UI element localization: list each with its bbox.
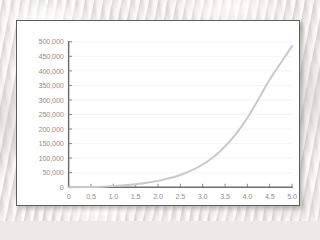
- y-tick-label: 150,000: [39, 139, 64, 148]
- x-tick-label: 4.5: [265, 192, 275, 201]
- y-tick-label: 450,000: [39, 52, 64, 61]
- x-tick-label: 4.0: [243, 192, 253, 201]
- y-axis-tick-labels: 050,000100,000150,000200,000250,000300,0…: [39, 37, 64, 191]
- y-tick-label: 350,000: [39, 81, 64, 90]
- y-tick-label: 300,000: [39, 96, 64, 105]
- y-tick-label: 400,000: [39, 67, 64, 76]
- x-tick-label: 1.5: [131, 192, 141, 201]
- x-tick-label: 0: [67, 192, 71, 201]
- y-tick-label: 50,000: [42, 168, 63, 177]
- exponential-growth-chart: 050,000100,000150,000200,000250,000300,0…: [17, 21, 299, 205]
- x-tick-label: 3.5: [220, 192, 230, 201]
- x-tick-label: 2.0: [153, 192, 163, 201]
- y-tick-label: 500,000: [39, 37, 64, 46]
- x-tick-label: 1.0: [109, 192, 119, 201]
- x-tick-label: 2.5: [176, 192, 186, 201]
- chart-frame: 050,000100,000150,000200,000250,000300,0…: [16, 20, 300, 206]
- x-tick-label: 0.5: [86, 192, 96, 201]
- y-tick-label: 250,000: [39, 110, 64, 119]
- data-series-line: [69, 46, 292, 187]
- x-tick-label: 5.0: [287, 192, 297, 201]
- gridlines-group: [69, 42, 292, 173]
- x-axis-tick-labels: 00.51.01.52.02.53.03.54.04.55.0: [67, 192, 297, 201]
- x-tick-label: 3.0: [198, 192, 208, 201]
- y-tick-label: 100,000: [39, 154, 64, 163]
- y-tick-label: 200,000: [39, 125, 64, 134]
- y-tick-label: 0: [60, 183, 64, 192]
